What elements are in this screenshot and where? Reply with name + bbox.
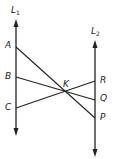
label-l2: L2 [91, 27, 100, 37]
point-k-label: K [63, 80, 69, 89]
arrow-down-icon [93, 149, 98, 157]
point-a-label: A [5, 41, 11, 50]
point-q-label: Q [100, 94, 107, 103]
label-l1: L1 [11, 6, 20, 16]
arrow-up-icon [93, 40, 98, 48]
segment-cr [16, 81, 95, 108]
diagram-canvas [0, 0, 115, 159]
point-r-label: R [100, 76, 106, 85]
arrow-up-icon [14, 19, 19, 27]
point-p-label: P [100, 113, 105, 122]
segment-ap [16, 47, 95, 118]
segment-bq [16, 77, 95, 100]
point-b-label: B [5, 72, 11, 81]
point-c-label: C [5, 103, 11, 112]
arrow-down-icon [14, 128, 19, 136]
